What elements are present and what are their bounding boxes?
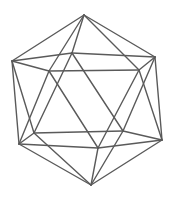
icosahedron-figure: [0, 0, 173, 197]
edge-L-BM: [12, 53, 72, 61]
edge-B-LR: [91, 140, 162, 185]
edge-FL-FR: [49, 70, 139, 71]
edge-RB-LR: [123, 131, 162, 140]
icosahedron-wireframe: [0, 0, 173, 197]
edge-R-RB: [123, 57, 155, 131]
edge-LB-RB: [34, 131, 123, 133]
edge-B-LL: [19, 144, 91, 185]
edge-BM-R: [72, 53, 155, 57]
edge-B-LB: [34, 133, 91, 185]
edge-group: [12, 15, 162, 185]
edge-L-FL: [12, 61, 49, 71]
edge-FM-LL: [19, 144, 98, 148]
